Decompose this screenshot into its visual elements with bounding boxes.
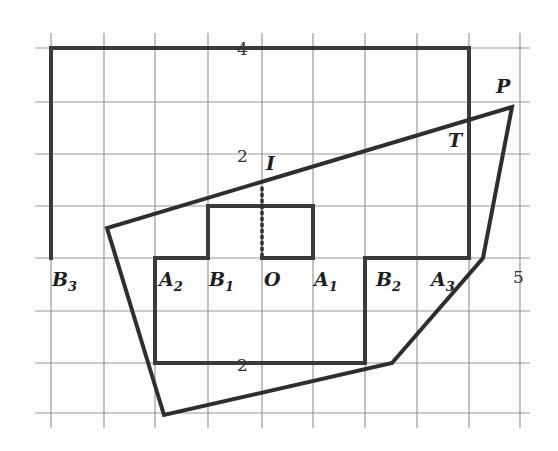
tick-label-yneg2: 2	[237, 355, 248, 375]
tick-label-x5: 5	[513, 267, 524, 287]
label-p: P	[495, 75, 511, 97]
background-text	[0, 0, 558, 451]
label-i: I	[265, 152, 276, 174]
tick-label-y2: 2	[237, 146, 248, 166]
label-t: T	[448, 129, 464, 151]
label-o: O	[264, 268, 281, 290]
tick-label-y4: 4	[237, 39, 248, 59]
geometry-figure: 4 2 2 5 P T I O B3 A2 B1 A1 B2 A3	[0, 0, 558, 451]
